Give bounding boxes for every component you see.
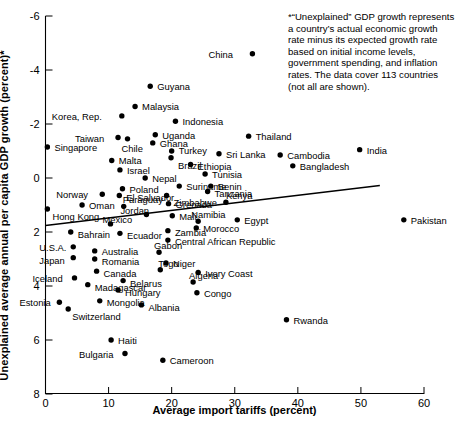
data-point [119,113,124,118]
data-point [125,136,130,141]
data-point-label: India [367,146,387,155]
data-point-label: Bahrain [78,230,110,239]
y-axis-title: Unexplained average annual per capita GD… [0,0,14,431]
data-point [72,275,77,280]
data-point-label: Guyana [157,82,190,91]
data-point [216,151,221,156]
data-point [277,152,282,157]
data-point [71,255,76,260]
y-tick-label: 2 [14,226,40,238]
data-point [401,217,406,222]
data-point-label: Mexico [102,215,132,224]
data-point [202,171,207,176]
data-point [97,298,102,303]
data-point-label: Pakistan [411,216,447,225]
y-tick-label: -2 [14,118,40,130]
data-point-label: Japan [39,256,65,265]
data-point [250,51,255,56]
y-tick-label: 0 [14,172,40,184]
data-point [68,229,73,234]
data-point-label: U.S.A. [39,243,66,252]
data-point [85,282,90,287]
data-point [246,133,251,138]
data-point [117,193,122,198]
data-point-label: Sri Lanka [226,150,266,159]
data-point [194,290,199,295]
data-point [160,358,165,363]
data-point-label: Nepal [152,174,177,183]
data-point-label: Israel [127,166,150,175]
data-point [169,148,174,153]
data-point-label: Algeria [189,271,218,280]
data-point [92,256,97,261]
data-point-label: Singapore [54,143,97,152]
data-point-label: Indonesia [182,117,223,126]
data-point [66,306,71,311]
data-point [177,183,182,188]
data-point-label: Thailand [256,132,292,141]
data-point-label: Mongolia [107,298,145,307]
data-point-label: Tunisia [212,170,242,179]
data-point-label: Morocco [203,224,239,233]
data-point [142,175,147,180]
footnote-annotation: *“Unexplained” GDP growth represents a c… [288,11,456,92]
data-point-label: Egypt [244,216,268,225]
data-point [168,155,173,160]
data-point [290,163,295,168]
y-tick-label: 4 [14,280,40,292]
y-tick-label: -6 [14,10,40,22]
data-point [122,351,127,356]
data-point [45,144,50,149]
data-point-label: Togo [158,259,178,268]
data-point [79,202,84,207]
data-point-label: Australia [102,247,138,256]
data-point-label: Congo [204,289,232,298]
data-point-label: Korea, Rep. [52,112,102,121]
data-point [108,337,113,342]
data-point-label: China [208,50,233,59]
data-point [109,158,114,163]
data-point [117,167,122,172]
data-point-label: Haiti [118,336,137,345]
data-point [170,213,175,218]
data-point [148,84,153,89]
data-point-label: Bangladesh [300,162,350,171]
data-point-label: Gabon [154,241,182,250]
data-point [57,300,62,305]
data-point-label: Kenya [226,191,253,200]
data-point-label: Estonia [19,298,50,307]
data-point [153,132,158,137]
data-point [94,268,99,273]
data-point [235,217,240,222]
data-point-label: Switzerland [72,312,120,321]
data-point-label: Romania [102,257,140,266]
x-axis-title: Average import tariffs (percent) [45,404,424,416]
data-point [45,206,50,211]
data-point-label: Oman [89,201,115,210]
y-tick-label: -4 [14,64,40,76]
data-point-label: Cameroon [170,356,214,365]
data-point [120,186,125,191]
data-point [357,147,362,152]
y-axis-ticks [46,16,53,394]
data-point [71,244,76,249]
data-point [173,119,178,124]
data-point [92,248,97,253]
data-point-label: Turkey [179,146,207,155]
data-point [115,135,120,140]
data-point-label: Bulgaria [79,350,113,359]
data-point [117,231,122,236]
data-point-label: Grenada [176,200,212,209]
data-point [165,228,170,233]
y-tick-label: 6 [14,334,40,346]
data-point-label: Central African Republic [175,237,276,246]
chart-page: ChinaGuyanaMalaysiaKorea, Rep.IndonesiaU… [0,0,462,431]
data-point [132,104,137,109]
data-point [100,192,105,197]
data-point-label: Hong Kong [52,212,99,221]
data-point-label: Malaysia [142,102,179,111]
data-point-label: Norway [56,190,88,199]
data-point-label: Namibia [191,210,225,219]
data-point [284,317,289,322]
data-point-label: Albania [148,303,179,312]
